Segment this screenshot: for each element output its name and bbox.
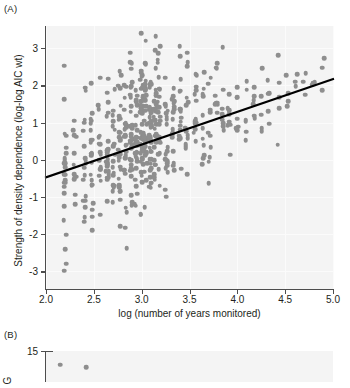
panel-b-label: (B) [4,329,17,340]
scatter-point [58,363,63,368]
x-tick-label: 5.0 [326,294,340,305]
y-tick-mark [41,234,45,235]
x-axis-title: log (number of years monitored) [46,308,333,319]
y-tick-label: 0 [32,154,38,165]
y-tick-mark [41,123,45,124]
x-tick-label: 2.5 [87,294,101,305]
y-axis-title: Strength of density dependence (log-log … [13,25,24,297]
x-tick-label: 4.5 [278,294,292,305]
y-tick-mark [41,160,45,161]
y-tick-label: 3 [32,43,38,54]
panel-a-plot-area [46,26,333,290]
y-tick-mark [41,271,45,272]
regression-line [46,26,333,290]
y-tick-mark [41,85,45,86]
y-tick-mark [41,48,45,49]
y-axis-line [45,26,46,290]
x-tick-label: 2.0 [39,294,53,305]
panel-b-axis-cap [45,351,53,352]
y-tick-label: -1 [29,192,38,203]
x-tick-label: 3.0 [135,294,149,305]
y-tick-label: 2 [32,80,38,91]
y-tick-label: -3 [29,266,38,277]
panel-b-ytick-label: 15 [27,346,38,357]
panel-b-ytick [41,351,45,352]
x-tick-label: 4.0 [230,294,244,305]
panel-b-plot-area [46,351,333,382]
y-tick-label: 1 [32,117,38,128]
panel-b-y-axis-title: G [2,366,13,388]
y-tick-label: -2 [29,229,38,240]
scatter-point [84,365,89,370]
y-tick-mark [41,197,45,198]
x-tick-label: 3.5 [183,294,197,305]
panel-b-y-axis-line [45,351,46,382]
gridline-vertical [333,26,334,290]
